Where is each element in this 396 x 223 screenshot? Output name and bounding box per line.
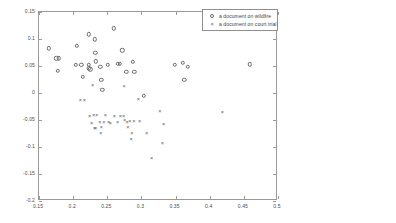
data-point-series-1 (103, 112, 108, 117)
data-point-series-0 (182, 78, 186, 82)
data-point-series-1 (129, 130, 134, 135)
y-axis-tick-right (273, 66, 276, 67)
data-point-series-1 (137, 119, 142, 124)
y-axis-label: 0.1 (18, 35, 35, 41)
x-marker-icon (207, 22, 217, 27)
y-axis-tick (39, 174, 42, 175)
y-axis-tick-right (273, 147, 276, 148)
y-axis-label: -0.2 (18, 197, 35, 203)
data-point-series-1 (131, 119, 136, 124)
data-point-series-0 (57, 56, 61, 60)
data-point-series-1 (82, 97, 87, 102)
y-axis-label: -0.1 (18, 143, 35, 149)
x-axis-label: 0.35 (169, 203, 179, 209)
y-axis-tick-right (273, 201, 276, 202)
data-point-series-1 (94, 113, 99, 118)
data-point-series-0 (56, 69, 60, 73)
data-point-series-1 (129, 137, 134, 142)
data-point-series-0 (93, 59, 97, 63)
data-point-series-0 (99, 78, 103, 82)
legend-label-wildfire: a document on wildfire (219, 13, 271, 19)
data-point-series-0 (93, 51, 97, 55)
data-point-series-0 (100, 88, 104, 92)
data-point-series-1 (108, 120, 113, 125)
data-point-series-0 (173, 63, 177, 67)
data-point-series-0 (132, 70, 136, 74)
data-point-series-1 (98, 131, 103, 136)
y-axis-tick (39, 93, 42, 94)
y-axis-tick (39, 66, 42, 67)
y-axis-label: -0.15 (18, 170, 35, 176)
x-axis-label: 0.2 (69, 203, 76, 209)
chart-legend: a document on wildfire a document on cou… (202, 9, 278, 31)
x-axis-tick-top (73, 12, 74, 15)
y-axis-label: -0.05 (18, 116, 35, 122)
data-point-series-0 (120, 48, 124, 52)
data-point-series-1 (136, 96, 141, 101)
data-point-series-0 (75, 44, 79, 48)
data-point-series-1 (220, 109, 225, 114)
x-axis-tick (278, 196, 279, 199)
x-axis-tick (210, 196, 211, 199)
x-axis-tick (141, 196, 142, 199)
data-point-series-1 (115, 120, 120, 125)
legend-label-court-trial: a document on court trial (219, 21, 277, 27)
x-axis-label: 0.45 (238, 203, 248, 209)
data-point-series-0 (79, 63, 83, 67)
data-point-series-1 (99, 125, 104, 130)
circle-marker-icon (207, 14, 217, 18)
data-point-series-1 (160, 140, 165, 145)
x-axis-tick (107, 196, 108, 199)
y-axis-tick-right (273, 120, 276, 121)
data-point-series-0 (106, 62, 110, 66)
y-axis-tick-right (273, 93, 276, 94)
x-axis-label: 0.3 (137, 203, 144, 209)
legend-item-wildfire: a document on wildfire (203, 12, 277, 20)
y-axis-tick (39, 201, 42, 202)
data-point-series-1 (144, 130, 149, 135)
x-axis-label: 0.25 (101, 203, 111, 209)
x-axis-tick (73, 196, 74, 199)
y-axis-tick (39, 120, 42, 121)
data-point-series-0 (47, 46, 51, 50)
x-axis-tick-top (107, 12, 108, 15)
data-point-series-1 (161, 122, 166, 127)
y-axis-tick (39, 147, 42, 148)
x-axis-tick-top (278, 12, 279, 15)
x-axis-tick (244, 196, 245, 199)
data-point-series-0 (181, 61, 185, 65)
y-axis-tick (39, 12, 42, 13)
data-point-series-1 (122, 84, 127, 89)
x-axis-tick (39, 196, 40, 199)
y-axis-tick (39, 39, 42, 40)
data-point-series-1 (90, 82, 95, 87)
x-axis-label: 0.4 (205, 203, 212, 209)
y-axis-tick-right (273, 39, 276, 40)
data-point-series-0 (98, 64, 102, 68)
legend-item-court-trial: a document on court trial (203, 20, 277, 28)
data-point-series-1 (149, 155, 154, 160)
y-axis-label: 0 (18, 89, 35, 95)
data-point-series-0 (112, 26, 116, 30)
data-point-series-0 (185, 64, 189, 68)
plot-area (38, 11, 277, 200)
x-axis-label: 0.15 (33, 203, 43, 209)
data-point-series-0 (131, 59, 135, 63)
data-point-series-0 (142, 94, 146, 98)
data-point-series-0 (247, 62, 251, 66)
x-axis-label: 0.5 (273, 203, 280, 209)
y-axis-label: 0.05 (18, 62, 35, 68)
data-points-layer (39, 12, 276, 199)
data-point-series-1 (157, 108, 162, 113)
x-axis-tick-top (141, 12, 142, 15)
x-axis-tick-top (176, 12, 177, 15)
x-axis-tick (176, 196, 177, 199)
data-point-series-0 (87, 32, 91, 36)
data-point-series-0 (73, 62, 77, 66)
data-point-series-0 (88, 67, 92, 71)
data-point-series-0 (81, 75, 85, 79)
y-axis-tick-right (273, 174, 276, 175)
scatter-plot-figure: 0.150.20.250.30.350.40.450.5-0.2-0.15-0.… (0, 0, 396, 223)
y-axis-label: 0.15 (18, 8, 35, 14)
data-point-series-0 (93, 37, 97, 41)
